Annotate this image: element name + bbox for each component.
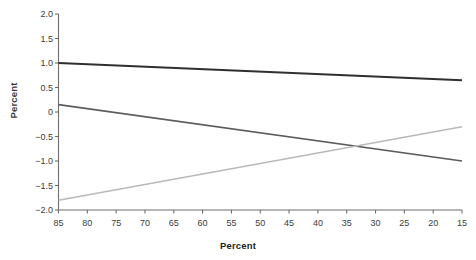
x-axis-tick-label: 20 (428, 218, 438, 228)
chart-figure: Percent 2.01.51.00.50−0.5−1.0−1.5−2.0 Pe… (0, 0, 476, 260)
x-axis-tick-label: 75 (111, 218, 121, 228)
x-axis-tick-label: 70 (140, 218, 150, 228)
x-axis-tick-label: 55 (226, 218, 236, 228)
x-axis-tick-label: 45 (284, 218, 294, 228)
x-axis-tick-label: 15 (457, 218, 467, 228)
x-axis-tick-label: 65 (169, 218, 179, 228)
x-axis-tick-label: 50 (255, 218, 265, 228)
x-axis-tick-label: 40 (313, 218, 323, 228)
data-line-series-2 (59, 105, 463, 161)
x-axis-tick-label: 30 (371, 218, 381, 228)
data-line-series-1 (59, 63, 463, 80)
x-axis-tick-label: 35 (342, 218, 352, 228)
x-axis-tick-label: 60 (198, 218, 208, 228)
data-line-series-3 (59, 127, 463, 201)
x-axis-tick-label: 85 (53, 218, 63, 228)
x-axis-tick-label: 25 (399, 218, 409, 228)
x-axis-tick-label: 80 (82, 218, 92, 228)
